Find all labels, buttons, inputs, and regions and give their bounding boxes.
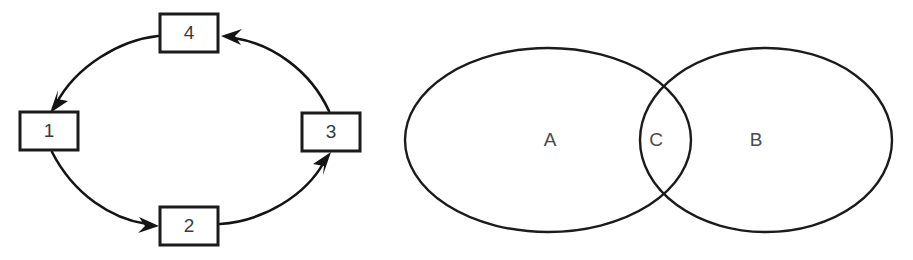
- edge-4-to-1-arrowhead: [50, 90, 68, 113]
- cycle-node-3-label: 3: [326, 121, 337, 142]
- edge-4-to-1-line: [56, 36, 158, 104]
- cycle-node-1-label: 1: [44, 120, 55, 141]
- edge-1-to-2: [52, 152, 159, 233]
- edge-2-to-3-arrowhead: [313, 152, 331, 175]
- edge-3-to-4-line: [234, 38, 329, 111]
- cycle-node-4-label: 4: [184, 22, 195, 43]
- figure-root: 4 1 2 3 A C B: [0, 0, 913, 260]
- edge-1-to-2-line: [52, 152, 147, 224]
- edge-4-to-1: [50, 36, 158, 113]
- venn-label-a: A: [544, 129, 557, 150]
- edge-1-to-2-arrowhead: [138, 217, 159, 233]
- cycle-diagram-panel: 4 1 2 3: [20, 14, 360, 245]
- cycle-node-2-label: 2: [184, 215, 195, 236]
- cycle-node-1[interactable]: 1: [20, 112, 78, 150]
- cycle-node-3[interactable]: 3: [302, 113, 360, 151]
- cycle-node-2[interactable]: 2: [160, 207, 218, 245]
- edge-3-to-4: [221, 29, 329, 111]
- cycle-node-4[interactable]: 4: [160, 14, 218, 52]
- edge-3-to-4-arrowhead: [221, 29, 242, 45]
- venn-label-b: B: [750, 129, 763, 150]
- edge-2-to-3: [220, 152, 331, 224]
- edge-2-to-3-line: [220, 162, 324, 224]
- venn-diagram-panel: A C B: [405, 48, 892, 232]
- venn-label-c: C: [649, 129, 663, 150]
- figure-canvas: 4 1 2 3 A C B: [0, 0, 913, 260]
- venn-ellipse-b[interactable]: [640, 48, 892, 232]
